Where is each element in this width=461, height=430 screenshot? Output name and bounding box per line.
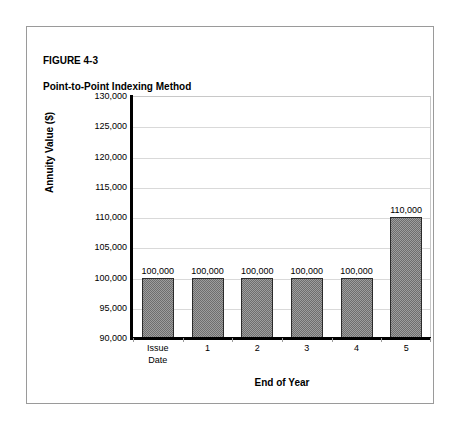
figure-number: FIGURE 4-3 — [43, 54, 191, 67]
bar — [341, 278, 373, 339]
x-axis-tick-labels: IssueDate12345 — [133, 342, 431, 376]
x-axis-tick-label: 2 — [229, 342, 285, 354]
bar-value-label: 100,000 — [279, 266, 335, 276]
x-axis-tick-label: IssueDate — [130, 342, 186, 366]
y-axis-line — [130, 95, 133, 340]
x-axis-tick-label: 3 — [279, 342, 335, 354]
y-axis-tick-label: 115,000 — [65, 182, 127, 192]
x-axis-tick-label: 5 — [378, 342, 434, 354]
y-axis-tick-label: 110,000 — [65, 212, 127, 222]
bar — [291, 278, 323, 339]
x-axis-title: End of Year — [133, 377, 431, 388]
x-axis-tick-label-line: 1 — [180, 342, 236, 354]
y-axis-title: Annuity Value ($) — [44, 83, 55, 223]
y-axis-tick-label: 120,000 — [65, 152, 127, 162]
bar — [142, 278, 174, 339]
bar-value-label: 100,000 — [229, 266, 285, 276]
figure-frame: FIGURE 4-3 Point-to-Point Indexing Metho… — [26, 26, 434, 404]
bar — [192, 278, 224, 339]
bar-value-label: 100,000 — [180, 266, 236, 276]
gridline — [133, 127, 430, 128]
x-axis-tick-label: 1 — [180, 342, 236, 354]
bar-value-label: 100,000 — [329, 266, 385, 276]
x-axis-tick-label-line: Issue — [130, 342, 186, 354]
bar-value-label: 100,000 — [130, 266, 186, 276]
y-axis-tick-label: 100,000 — [65, 273, 127, 283]
bar — [241, 278, 273, 339]
x-axis-tick-label-line: Date — [130, 354, 186, 366]
gridline — [133, 188, 430, 189]
y-axis-tick-label: 105,000 — [65, 242, 127, 252]
gridline — [133, 279, 430, 280]
y-axis-tick-label: 90,000 — [65, 333, 127, 343]
gridline — [133, 309, 430, 310]
gridline — [133, 248, 430, 249]
y-axis-tick-label: 125,000 — [65, 121, 127, 131]
x-axis-tick-label: 4 — [329, 342, 385, 354]
y-axis-tick-labels: 90,00095,000100,000105,000110,000115,000… — [59, 96, 127, 338]
x-axis-tick-label-line: 4 — [329, 342, 385, 354]
plot-area: 100,000100,000100,000100,000100,000110,0… — [133, 96, 431, 338]
gridline — [133, 158, 430, 159]
bar-value-label: 110,000 — [378, 205, 434, 215]
gridline — [133, 218, 430, 219]
bar — [390, 217, 422, 338]
x-axis-tick-label-line: 5 — [378, 342, 434, 354]
y-axis-tick-label: 95,000 — [65, 303, 127, 313]
x-axis-tick-label-line: 3 — [279, 342, 335, 354]
y-axis-tick-label: 130,000 — [65, 91, 127, 101]
x-axis-tick-label-line: 2 — [229, 342, 285, 354]
